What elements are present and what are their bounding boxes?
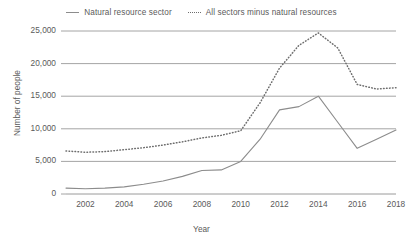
series-line-1 — [66, 96, 396, 189]
